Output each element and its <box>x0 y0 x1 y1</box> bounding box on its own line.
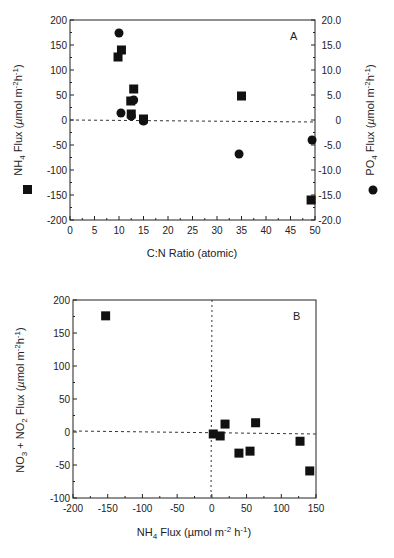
nh4-square-marker <box>129 85 138 94</box>
x-tick-label: 45 <box>285 225 297 236</box>
y-tick-label: 0 <box>64 427 70 438</box>
panel-a: 05101520253035404550 200150100500-50-100… <box>11 15 379 260</box>
nox-square-marker <box>101 311 110 320</box>
x-tick-label: 150 <box>308 503 325 514</box>
y2-tick-label: 0 <box>335 115 341 126</box>
po4-circle-marker <box>115 29 124 38</box>
y-tick-label: 200 <box>50 15 67 26</box>
x-tick-label: -50 <box>170 503 185 514</box>
panel-b-x-ticks: -200-150-100-50050100150 <box>63 494 325 514</box>
x-tick-label: 35 <box>236 225 248 236</box>
y2-tick-label: -20.0 <box>318 215 341 226</box>
x-tick-label: 10 <box>113 225 125 236</box>
y-tick-label: -50 <box>53 140 68 151</box>
y-tick-label: 100 <box>50 65 67 76</box>
y2-tick-label: 20.0 <box>322 15 342 26</box>
y-tick-label: -100 <box>50 493 70 504</box>
panel-b-frame <box>73 300 316 498</box>
po4-legend-circle-icon <box>369 186 378 195</box>
panel-a-y-axis-label: NH4 Flux (µmol m-2h-1) <box>11 64 27 175</box>
x-tick-label: -200 <box>63 503 83 514</box>
x-tick-label: 0 <box>67 225 73 236</box>
panel-a-x-axis-label: C:N Ratio (atomic) <box>147 247 237 259</box>
y-tick-label: 50 <box>56 90 68 101</box>
y2-tick-label: 10.0 <box>322 65 342 76</box>
nox-square-marker <box>251 418 260 427</box>
panel-b-y-zero-line <box>73 431 316 434</box>
nox-square-marker <box>221 420 230 429</box>
x-tick-label: 100 <box>273 503 290 514</box>
y-tick-label: -150 <box>47 190 67 201</box>
y-tick-label: 200 <box>53 295 70 306</box>
nox-square-marker <box>216 431 225 440</box>
panel-b-x-zero-line <box>211 300 212 498</box>
panel-a-x-ticks: 05101520253035404550 <box>67 216 321 236</box>
po4-circle-marker <box>308 136 317 145</box>
po4-circle-marker <box>127 112 136 121</box>
panel-b: -200-150-100-50050100150 200150100500-50… <box>13 295 325 542</box>
nox-square-marker <box>305 466 314 475</box>
x-tick-label: 25 <box>187 225 199 236</box>
panel-a-label: A <box>290 30 298 42</box>
nh4-square-marker <box>307 196 316 205</box>
po4-circle-marker <box>139 117 148 126</box>
nh4-legend-square-icon <box>23 185 32 194</box>
y2-tick-label: -10.0 <box>318 165 341 176</box>
x-tick-label: 0 <box>209 503 215 514</box>
po4-circle-marker <box>129 96 138 105</box>
y-tick-label: 150 <box>53 328 70 339</box>
x-tick-label: -100 <box>132 503 152 514</box>
panel-b-y-axis-label: NO3 + NO2 Flux (µmol m-2h-1) <box>13 327 29 472</box>
y-tick-label: 150 <box>50 40 67 51</box>
y2-tick-label: 15.0 <box>322 40 342 51</box>
nox-square-marker <box>234 449 243 458</box>
nox-square-marker <box>296 437 305 446</box>
figure: 05101520253035404550 200150100500-50-100… <box>0 0 394 558</box>
y2-tick-label: -5.0 <box>324 140 342 151</box>
y-tick-label: -100 <box>47 165 67 176</box>
po4-circle-marker <box>116 109 125 118</box>
nox-square-marker <box>246 447 255 456</box>
y-tick-label: 50 <box>59 394 71 405</box>
nh4-square-marker <box>117 46 126 55</box>
x-tick-label: -150 <box>98 503 118 514</box>
y-tick-label: 0 <box>61 115 67 126</box>
x-tick-label: 5 <box>92 225 98 236</box>
nh4-square-marker <box>237 92 246 101</box>
y-tick-label: -50 <box>56 460 71 471</box>
y2-tick-label: 5.0 <box>327 90 341 101</box>
svg-text:PO4 Flux (µmol m-2h-1): PO4 Flux (µmol m-2h-1) <box>363 64 379 175</box>
x-tick-label: 20 <box>162 225 174 236</box>
panel-b-points <box>101 311 314 475</box>
x-tick-label: 40 <box>260 225 272 236</box>
y-tick-label: 100 <box>53 361 70 372</box>
svg-text:NH4 Flux (µmol m-2h-1): NH4 Flux (µmol m-2h-1) <box>11 64 27 175</box>
y2-tick-label: -15.0 <box>318 190 341 201</box>
panel-a-y2-axis-label: PO4 Flux (µmol m-2h-1) <box>363 64 379 175</box>
panel-b-x-axis-label: NH4 Flux (µmol m-2 h-1) <box>137 525 251 541</box>
panel-a-zero-line <box>70 120 315 122</box>
y-tick-label: -200 <box>47 215 67 226</box>
po4-circle-marker <box>235 150 244 159</box>
x-tick-label: 30 <box>211 225 223 236</box>
panel-a-points <box>114 29 317 205</box>
panel-a-y2-ticks: 20.015.010.05.00-5.0-10.0-15.0-20.0 <box>311 15 341 226</box>
x-tick-label: 50 <box>309 225 321 236</box>
panel-b-label: B <box>293 310 300 322</box>
svg-text:NO3 + NO2 Flux (µmol m-2h-1): NO3 + NO2 Flux (µmol m-2h-1) <box>13 327 29 472</box>
x-tick-label: 15 <box>138 225 150 236</box>
x-tick-label: 50 <box>241 503 253 514</box>
